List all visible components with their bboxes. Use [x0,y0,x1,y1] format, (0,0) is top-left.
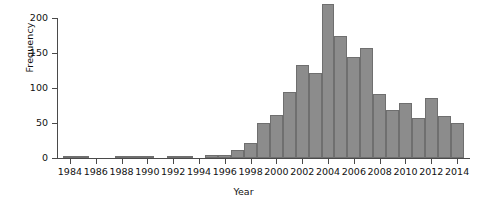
histogram-bar [76,156,89,158]
histogram-bar [373,94,386,158]
x-axis-title: Year [0,186,487,197]
histogram-bar [386,110,399,158]
x-axis-tick [147,159,148,164]
histogram-bar [451,123,464,158]
histogram-bar [322,4,335,158]
y-axis-tick-label: 150 [18,48,48,58]
x-axis-tick [354,159,355,164]
y-axis-tick-label: 50 [18,118,48,128]
histogram-bar [283,92,296,159]
x-axis-tick [302,159,303,164]
x-axis-tick [225,159,226,164]
histogram-bar [218,155,231,158]
histogram-bar [63,156,76,158]
histogram-bar [115,156,128,158]
histogram-bar [180,156,193,158]
histogram-bar [425,98,438,158]
histogram-bar [167,156,180,158]
histogram-bar [399,103,412,158]
histogram-bar [270,115,283,158]
x-axis-tick [276,159,277,164]
histogram-bar [296,65,309,158]
x-axis-tick [70,159,71,164]
histogram-bar [347,57,360,159]
histogram-bar [438,116,451,158]
histogram-bar [231,150,244,158]
plot-area [57,0,470,158]
x-axis-line [57,158,470,159]
histogram-bar [257,123,270,158]
x-axis-tick [328,159,329,164]
x-axis-tick [405,159,406,164]
x-axis-tick [251,159,252,164]
histogram-bar [205,155,218,158]
histogram-bar [244,143,257,158]
histogram-bar [309,73,322,158]
histogram-chart: Frequency 050100150200 19841986198819901… [0,0,487,209]
x-axis-tick [431,159,432,164]
x-axis-tick [96,159,97,164]
x-axis-tick [173,159,174,164]
x-axis-tick [199,159,200,164]
y-axis-tick-label: 100 [18,83,48,93]
histogram-bar [128,156,141,158]
x-axis-tick [380,159,381,164]
histogram-bar [141,156,154,158]
histogram-bar [412,118,425,158]
histogram-bar [360,48,373,158]
y-axis-tick-label: 200 [18,13,48,23]
y-axis-tick-label: 0 [18,153,48,163]
x-axis-tick-label: 2014 [437,167,477,177]
x-axis-tick [457,159,458,164]
histogram-bar [334,36,347,158]
x-axis-tick [122,159,123,164]
